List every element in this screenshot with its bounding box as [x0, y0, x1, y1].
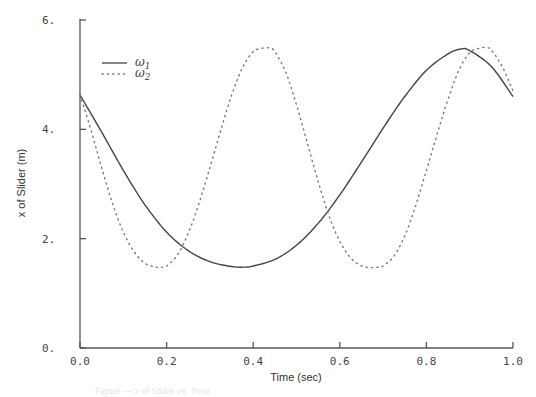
x-axis-title: Time (sec): [270, 371, 322, 383]
x-tick-label: 0.2: [157, 355, 177, 368]
y-tick-label: 2.: [42, 233, 55, 246]
y-tick-label: 6.: [42, 14, 55, 27]
y-axis-title: x of Slider (m): [15, 149, 27, 217]
x-ticks: 0.00.20.40.60.81.0: [70, 342, 523, 368]
axes: 0.2.4.6. 0.00.20.40.60.81.0: [42, 14, 523, 368]
y-tick-label: 4.: [42, 123, 55, 136]
x-tick-label: 0.0: [70, 355, 90, 368]
x-tick-label: 0.4: [243, 355, 263, 368]
legend: ω1 ω2: [102, 55, 151, 82]
y-tick-label: 0.: [42, 342, 55, 355]
x-tick-label: 0.8: [416, 355, 436, 368]
x-tick-label: 1.0: [503, 355, 523, 368]
x-tick-label: 0.6: [330, 355, 350, 368]
figure-caption: Figure — x of Slider vs. Time: [95, 386, 211, 396]
line-chart: 0.2.4.6. 0.00.20.40.60.81.0 Time (sec) x…: [0, 0, 536, 397]
